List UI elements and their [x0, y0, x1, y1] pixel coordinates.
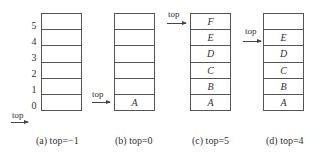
arrow-right-icon — [11, 122, 28, 123]
stack-cell — [264, 14, 303, 29]
index-label: 1 — [30, 84, 38, 95]
stack-cell: B — [264, 78, 303, 94]
stack-cell — [42, 14, 81, 29]
arrow-right-icon — [243, 41, 261, 42]
caption-d: (d) top=4 — [266, 135, 304, 146]
arrow-right-icon — [167, 23, 186, 24]
stack-d: E D C B A — [263, 13, 304, 111]
stack-cell: E — [264, 29, 303, 45]
stack-cell — [42, 78, 81, 94]
stack-cell: C — [191, 62, 230, 78]
index-label: 5 — [30, 20, 38, 31]
caption-b: (b) top=0 — [115, 135, 153, 146]
stack-cell — [42, 29, 81, 45]
caption-a: (a) top=−1 — [36, 135, 79, 146]
stack-cell: D — [264, 45, 303, 61]
stack-cell — [42, 94, 81, 110]
stack-cell: A — [115, 94, 154, 110]
index-label: 2 — [30, 68, 38, 79]
stack-cell — [115, 14, 154, 29]
top-pointer-label: top — [245, 26, 257, 36]
stack-cell: D — [191, 45, 230, 61]
stack-cell — [115, 45, 154, 61]
top-pointer-label: top — [12, 110, 24, 120]
stack-cell — [42, 45, 81, 61]
index-label: 0 — [30, 100, 38, 111]
index-label: 4 — [30, 36, 38, 47]
stack-a — [41, 13, 82, 111]
stack-cell: C — [264, 62, 303, 78]
stack-cell: A — [264, 94, 303, 110]
stack-cell — [115, 29, 154, 45]
index-label: 3 — [30, 52, 38, 63]
stack-cell — [42, 62, 81, 78]
stack-b: A — [114, 13, 155, 111]
stack-cell — [115, 62, 154, 78]
caption-c: (c) top=5 — [192, 135, 229, 146]
stack-cell: E — [191, 29, 230, 45]
arrow-right-icon — [92, 102, 110, 103]
top-pointer-label: top — [168, 9, 180, 19]
stack-cell — [115, 78, 154, 94]
stack-cell: A — [191, 94, 230, 110]
top-pointer-label: top — [92, 89, 104, 99]
stack-cell: B — [191, 78, 230, 94]
stack-c: F E D C B A — [190, 13, 231, 111]
stack-cell: F — [191, 14, 230, 29]
